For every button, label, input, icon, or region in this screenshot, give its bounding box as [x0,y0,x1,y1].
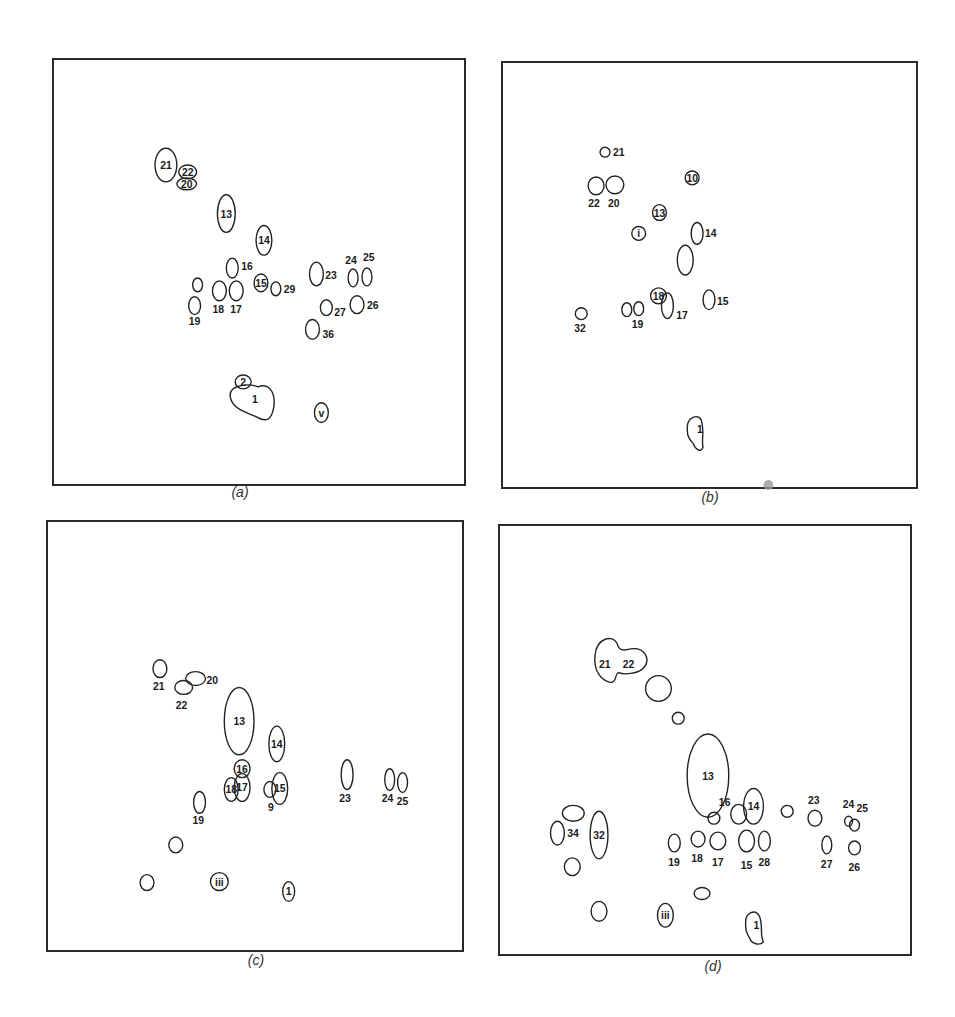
spot-map-b: 2122201013i1418171519321 [503,63,916,487]
spot-label: 14 [271,739,283,750]
spot-17: 17 [229,281,243,315]
panel-a: 212220131416152919181723242526273621v [52,58,466,486]
spot-label: 19 [193,815,205,826]
spot-label: 10 [686,173,698,184]
spot-23: 23 [310,262,338,286]
spot-outline [575,308,587,320]
spot-label: 15 [255,278,267,289]
spot-label: 25 [857,803,869,814]
spot-label: 34 [567,828,579,839]
spot-13: 13 [217,195,235,233]
spot-outline [140,875,154,891]
spot-label: iii [661,910,670,921]
spot-unlabeled [677,245,693,275]
spot-label: 1 [286,886,292,897]
spot-outline [320,300,332,316]
spot-label: 16 [241,261,253,272]
spot-outline [622,303,632,317]
spot-label: 15 [717,296,729,307]
spot-map-a: 212220131416152919181723242526273621v [54,60,464,484]
spot-outline [710,832,726,850]
spot-label: 13 [233,716,245,727]
spot-outline [646,676,672,702]
spot-15: 15 [739,830,755,871]
spot-label: 1 [754,920,760,931]
spot-label: 13 [221,209,233,220]
spot-outline [708,812,720,824]
spot-map-c: 212220131416181791519232425iii1 [48,522,462,950]
spot-label: 18 [212,304,224,315]
spot-outline [849,841,861,855]
spot-outline [703,290,715,310]
spot-outline [672,712,684,724]
spot-label: 22 [182,167,194,178]
spot-19: 19 [193,791,206,826]
spot-19: 19 [189,297,201,328]
spot-29: 29 [271,282,296,296]
spot-outline [348,269,358,287]
spot-label: 27 [821,859,833,870]
panel-c: 212220131416181791519232425iii1 [46,520,464,952]
spot-label: 26 [849,862,861,873]
spot-outline [562,805,584,821]
spot-outline [271,282,281,296]
spot-outline [661,293,673,319]
spot-label: 21 [160,160,172,171]
spot-unlabeled [169,837,183,853]
spot-unlabeled [694,888,710,900]
spot-label: v [319,408,325,419]
spot-outline [350,296,364,314]
spot-outline [588,177,604,195]
spot-36: 36 [306,320,335,341]
panel-b: 2122201013i1418171519321 [501,61,918,489]
spot-1: 1 [746,912,764,944]
spot-27: 27 [821,836,833,870]
spot-label: 15 [741,860,753,871]
spot-15: 15 [272,773,288,805]
spot-label: 14 [748,801,760,812]
spot-outline [169,837,183,853]
spot-outline [606,176,624,194]
spot-23: 23 [339,760,353,805]
spot-34: 34 [551,821,580,845]
spot-27: 27 [320,300,346,318]
spot-label: 15 [274,783,286,794]
spot-unlabeled [646,676,672,702]
spot-outline [226,258,238,278]
spot-label: 24 [843,799,855,810]
spot-label: 25 [397,796,409,807]
spot-label: 20 [608,198,620,209]
spot-label: 13 [702,771,714,782]
spot-unlabeled [622,303,632,317]
spot-unlabeled [193,278,203,292]
spot-outline [341,760,353,790]
spot-label: 17 [236,782,248,793]
spot-14: 14 [691,223,717,245]
spot-outline [691,223,703,245]
spot-outline [362,268,372,286]
spot-24: 24 [345,255,358,287]
spot-label: 20 [206,675,218,686]
spot-label: 22 [623,659,635,670]
spot-outline [677,245,693,275]
spot-21: 21 [155,148,177,182]
spot-label: 17 [230,304,242,315]
spot-outline [212,281,226,301]
spot-14: 14 [269,726,285,762]
spot-unlabeled [781,805,793,817]
spot-outline [186,672,206,686]
spot-13: 13 [653,205,667,221]
spot-label: 27 [334,307,346,318]
spot-label: 25 [363,252,375,263]
spot-unlabeled [564,858,580,876]
spot-label: 22 [176,700,188,711]
caption-d: (d) [683,958,743,974]
spot-label: 17 [676,310,688,321]
spot-17: 17 [661,293,688,321]
spot-unlabeled [591,901,607,921]
spot-label: 17 [712,857,724,868]
stain-mark [763,480,773,490]
spot-15: 15 [703,290,729,310]
spot-label: 13 [654,208,666,219]
spot-21: 21 [153,660,167,693]
